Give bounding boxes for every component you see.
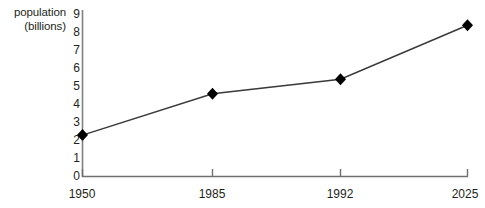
data-line-series [83, 25, 468, 135]
data-point-marker-1985 [207, 88, 218, 100]
data-point-marker-1950 [77, 129, 88, 141]
population-line-chart: population (billions) 9 8 7 6 5 4 3 2 1 … [0, 0, 485, 208]
plot-area [0, 0, 485, 208]
data-point-marker-2025 [462, 19, 473, 31]
data-point-marker-1992 [335, 73, 346, 85]
data-markers-group [77, 19, 473, 141]
